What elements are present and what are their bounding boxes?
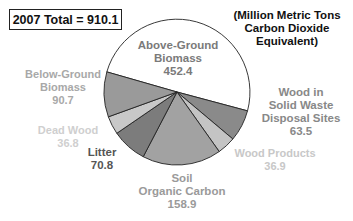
label-line: Below-Ground xyxy=(18,68,108,81)
label-line: Above-Ground xyxy=(130,39,226,52)
label-line: Solid Waste xyxy=(246,99,353,112)
units-line-3: Equivalent) xyxy=(222,35,352,48)
label-line: Wood Products xyxy=(225,147,325,160)
label-value: 70.8 xyxy=(76,159,128,172)
label-wood-in-swds: Wood in Solid Waste Disposal Sites 63.5 xyxy=(246,86,353,138)
label-value: 158.9 xyxy=(132,198,232,211)
label-wood-products: Wood Products 36.9 xyxy=(225,147,325,173)
label-below-ground-biomass: Below-Ground Biomass 90.7 xyxy=(18,68,108,107)
label-line: Biomass xyxy=(18,81,108,94)
label-line: Biomass xyxy=(130,52,226,65)
label-line: Soil xyxy=(132,172,232,185)
units-line-1: (Million Metric Tons xyxy=(222,9,352,22)
label-value: 63.5 xyxy=(246,125,353,138)
label-value: 90.7 xyxy=(18,94,108,107)
label-line: Disposal Sites xyxy=(246,112,353,125)
label-line: Organic Carbon xyxy=(132,185,232,198)
label-soil-organic-carbon: Soil Organic Carbon 158.9 xyxy=(132,172,232,211)
total-box: 2007 Total = 910.1 xyxy=(9,9,122,30)
label-line: Wood in xyxy=(246,86,353,99)
label-value: 36.9 xyxy=(225,160,325,173)
label-dead-wood: Dead Wood 36.8 xyxy=(28,124,108,150)
label-value: 36.8 xyxy=(28,137,108,150)
label-above-ground-biomass: Above-Ground Biomass 452.4 xyxy=(130,39,226,78)
units-line-2: Carbon Dioxide xyxy=(222,22,352,35)
label-line: Dead Wood xyxy=(28,124,108,137)
units-note: (Million Metric Tons Carbon Dioxide Equi… xyxy=(222,9,352,48)
label-value: 452.4 xyxy=(130,65,226,78)
